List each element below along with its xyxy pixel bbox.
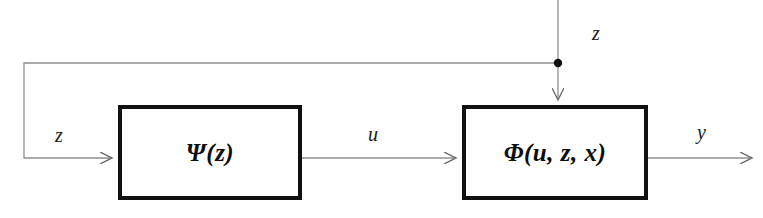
block-psi-label: Ψ(z) [186, 139, 234, 167]
signal-label-u: u [368, 123, 378, 146]
diagram-canvas [0, 0, 763, 218]
z-junction-dot [554, 59, 562, 67]
block-diagram: Ψ(z) Φ(u, z, x) z z u y [0, 0, 763, 218]
signal-label-z-feedback: z [55, 124, 63, 147]
block-psi: Ψ(z) [118, 105, 302, 200]
block-phi-label: Φ(u, z, x) [504, 139, 607, 167]
signal-label-z-top: z [592, 22, 600, 45]
block-phi: Φ(u, z, x) [462, 105, 648, 200]
signal-label-y: y [697, 121, 706, 144]
